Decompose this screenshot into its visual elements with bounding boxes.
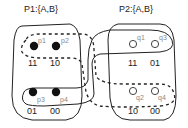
label-p2: p2 xyxy=(61,37,69,44)
code-q1: 11 xyxy=(128,58,137,68)
code-p1: 11 xyxy=(28,58,37,68)
p2-title: P2:{A,B} xyxy=(119,4,153,14)
point-q1 xyxy=(129,40,136,47)
point-p2 xyxy=(52,42,60,50)
label-q2: q2 xyxy=(136,94,144,101)
label-p4: p4 xyxy=(60,96,68,103)
label-p3: p3 xyxy=(37,96,45,103)
code-p3: 01 xyxy=(27,106,37,116)
code-q3: 01 xyxy=(150,58,160,68)
label-q1: q1 xyxy=(137,34,145,41)
code-q4: 00 xyxy=(150,106,160,116)
point-p3 xyxy=(29,88,37,96)
label-q3: q3 xyxy=(159,34,167,41)
label-p1: p1 xyxy=(38,37,46,44)
point-q3 xyxy=(151,40,158,47)
code-p4: 00 xyxy=(50,106,60,116)
p1-title: P1:{A,B} xyxy=(24,4,58,14)
point-p1 xyxy=(30,42,38,50)
code-p2: 10 xyxy=(50,58,60,68)
point-p4 xyxy=(52,88,60,96)
label-q4: q4 xyxy=(158,94,166,101)
code-q2: 10 xyxy=(128,106,138,116)
